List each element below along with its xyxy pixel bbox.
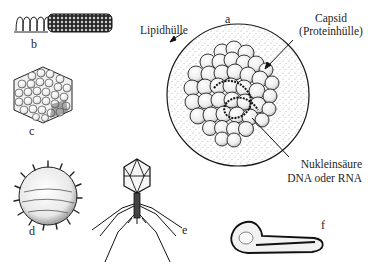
helical-capsid-icon	[48, 14, 112, 32]
annotation-nucleic-acid-line2: DNA oder RNA	[282, 172, 362, 184]
virus-f-elongated	[231, 222, 322, 253]
nucleic-acid-coil-icon	[14, 17, 48, 32]
virus-c-icosahedron	[14, 67, 72, 123]
phage-tail-icon	[134, 193, 140, 218]
annotation-capsid-line1: Capsid	[294, 12, 368, 24]
label-e: e	[182, 224, 187, 236]
label-c: c	[29, 125, 34, 137]
annotation-nucleic-acid: Nukleinsäure DNA oder RNA	[282, 158, 362, 184]
virus-e-bacteriophage	[92, 159, 182, 262]
label-b: b	[31, 38, 37, 50]
virus-b-rod	[14, 14, 112, 32]
label-d: d	[29, 225, 35, 237]
label-a: a	[225, 13, 230, 25]
annotation-capsid: Capsid (Proteinhülle)	[294, 12, 368, 37]
virus-a-enveloped	[167, 24, 309, 166]
annotation-nucleic-acid-line1: Nukleinsäure	[282, 158, 362, 170]
label-f: f	[321, 219, 325, 231]
annotation-lipid-envelope: Lipidhülle	[140, 24, 188, 36]
virus-d-spiked	[14, 161, 82, 230]
annotation-capsid-line2: (Proteinhülle)	[294, 25, 368, 37]
